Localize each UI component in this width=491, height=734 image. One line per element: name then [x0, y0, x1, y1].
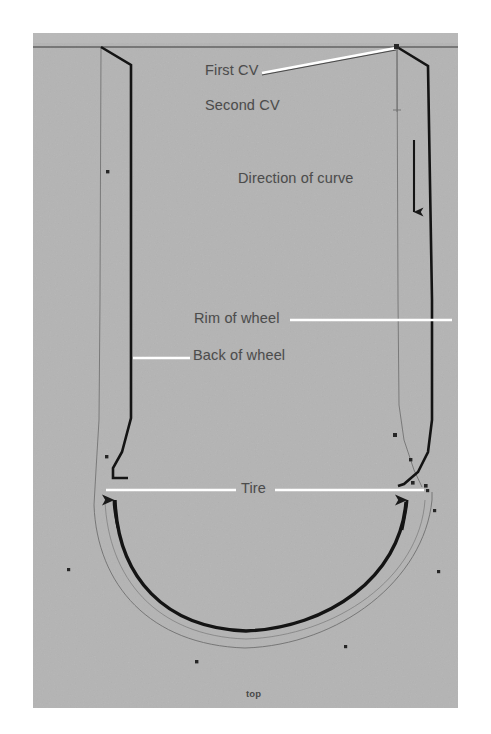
cv-marker — [195, 660, 198, 663]
cv-marker — [426, 489, 429, 492]
cv-marker — [67, 568, 70, 571]
plate-background — [33, 33, 458, 708]
label-first-cv: First CV — [205, 62, 259, 78]
label-second-cv: Second CV — [205, 97, 280, 113]
cv-marker — [411, 481, 415, 485]
cv-marker — [344, 645, 347, 648]
figure-root: First CV Second CV Direction of curve Ri… — [0, 0, 491, 734]
cv-marker — [409, 458, 412, 461]
cv-marker — [424, 484, 428, 488]
cv-marker — [106, 170, 109, 173]
cv-marker-first — [394, 44, 399, 49]
cv-marker — [433, 509, 436, 512]
label-direction-of-curve: Direction of curve — [238, 170, 354, 186]
cv-marker — [105, 455, 108, 458]
label-tire: Tire — [241, 480, 266, 496]
label-back-of-wheel: Back of wheel — [193, 347, 285, 363]
cv-marker — [393, 433, 397, 437]
label-rim-of-wheel: Rim of wheel — [194, 310, 280, 326]
cv-marker — [437, 570, 440, 573]
label-orientation-top: top — [246, 688, 261, 699]
